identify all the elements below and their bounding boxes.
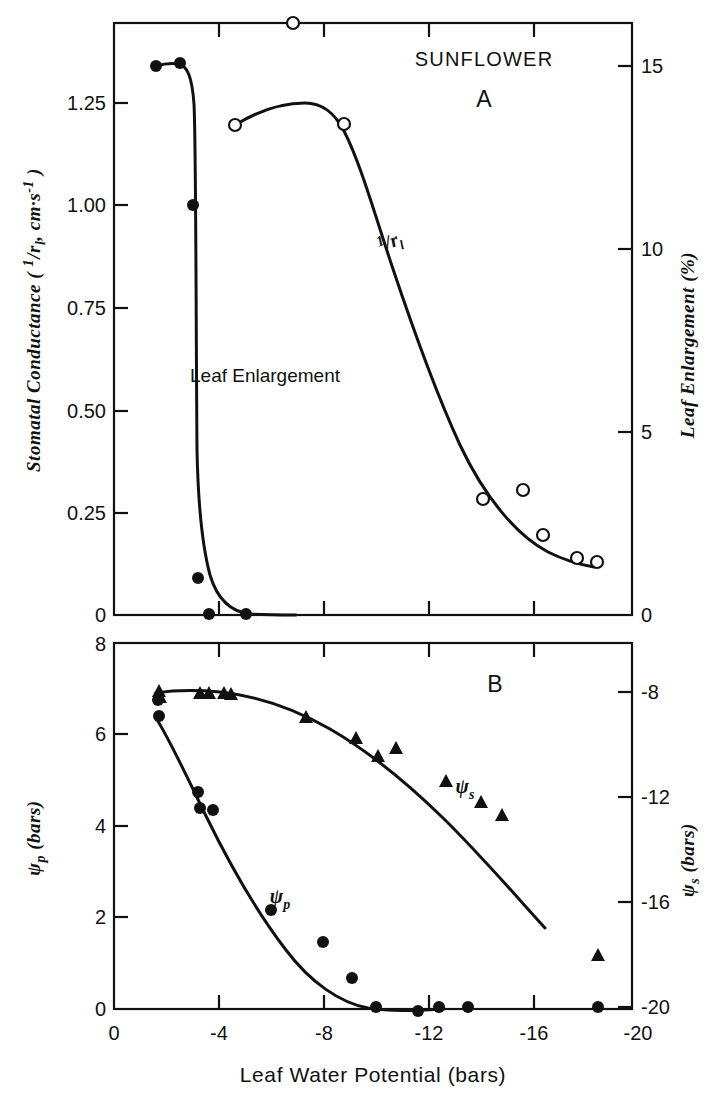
svg-text:1/rl: 1/rl — [374, 226, 407, 260]
figure-root: 1.25 1.00 0.75 0.50 0.25 0 15 10 5 0 — [0, 0, 711, 1116]
panel-a-left-ticks — [114, 103, 128, 513]
panel-b-ytick-2: 2 — [95, 906, 106, 928]
panel-a-frame — [114, 23, 632, 615]
panel-a-label: A — [476, 86, 492, 112]
inverse-rl-points — [229, 17, 603, 568]
panel-a-axis-title-pre: Stomatal Conductance ( — [23, 267, 45, 472]
panel-b-ytick-4: 4 — [95, 815, 106, 837]
panel-b-xtick-labels: 0 -4 -8 -12 -16 -20 — [108, 1022, 652, 1044]
panel-b-y2tick-8: -8 — [641, 681, 659, 703]
panel-b-y2tick-16: -16 — [641, 891, 670, 913]
panel-b-right-ticks — [618, 692, 632, 1007]
panel-a-ytick-025: 0.25 — [67, 502, 106, 524]
panel-b-left-tick-labels: 8 6 4 2 0 — [95, 633, 106, 1020]
psi-p-points — [152, 694, 604, 1017]
xtick-12: -12 — [415, 1022, 444, 1044]
panel-a-axis-title-post: ) — [23, 168, 45, 180]
xtick-0: 0 — [108, 1022, 119, 1044]
xtick-16: -16 — [520, 1022, 549, 1044]
psi-p-curve — [156, 718, 444, 1010]
panel-a-ytick-0: 0 — [95, 604, 106, 626]
svg-text:ψs: ψs — [456, 775, 475, 802]
panel-a-y2tick-15: 15 — [641, 55, 663, 77]
panel-a-bottom-ticks — [219, 601, 534, 615]
figure-svg: 1.25 1.00 0.75 0.50 0.25 0 15 10 5 0 — [0, 0, 711, 1116]
panel-a-ytick-100: 1.00 — [67, 194, 106, 216]
xtick-8: -8 — [315, 1022, 333, 1044]
panel-b-left-ticks — [114, 734, 128, 917]
panel-a-left-tick-labels: 1.25 1.00 0.75 0.50 0.25 0 — [67, 92, 106, 626]
svg-text:ψp (bars): ψp (bars) — [23, 800, 48, 875]
panel-a-ytick-075: 0.75 — [67, 297, 106, 319]
panel-a-axis-title-num: 1 — [20, 259, 36, 267]
panel-a-axis-title-mid: , cm·s — [23, 193, 44, 242]
panel-b-ytick-8: 8 — [95, 633, 106, 655]
panel-b-top-ticks — [219, 643, 534, 657]
panel-b: 8 6 4 2 0 -8 -12 -16 -20 — [23, 633, 702, 1044]
xtick-20: -20 — [624, 1022, 653, 1044]
inverse-rl-curve-label: 1/rl — [374, 226, 407, 260]
inverse-rl-curve — [235, 103, 594, 567]
panel-a-y2tick-0: 0 — [641, 604, 652, 626]
panel-a-ytick-125: 1.25 — [67, 92, 106, 114]
svg-text:Leaf Enlargement (%): Leaf Enlargement (%) — [677, 252, 699, 439]
panel-a-axis-title-den: r — [23, 245, 44, 253]
panel-a-ytick-050: 0.50 — [67, 400, 106, 422]
panel-a-right-axis-title: Leaf Enlargement (%) — [677, 252, 699, 439]
panel-b-right-tick-labels: -8 -12 -16 -20 — [641, 681, 670, 1018]
panel-a-right-tick-labels: 15 10 5 0 — [641, 55, 663, 626]
svg-text:Stomatal Conductance ( 1/rl, c: Stomatal Conductance ( 1/rl, cm·s-1 ) — [20, 168, 48, 472]
panel-a-right-ticks — [618, 66, 632, 432]
x-axis-title: Leaf Water Potential (bars) — [240, 1063, 506, 1086]
panel-a: 1.25 1.00 0.75 0.50 0.25 0 15 10 5 0 — [20, 17, 699, 626]
panel-b-ytick-0: 0 — [95, 998, 106, 1020]
svg-text:ψs (bars): ψs (bars) — [677, 823, 702, 897]
panel-b-y2tick-12: -12 — [641, 786, 670, 808]
leaf-enlargement-curve — [156, 64, 296, 615]
panel-a-y2tick-10: 10 — [641, 238, 663, 260]
panel-a-top-ticks — [219, 23, 534, 37]
psi-s-curve-label: ψs — [456, 775, 475, 802]
leaf-enlargement-curve-label: Leaf Enlargement — [190, 365, 341, 386]
xtick-4: -4 — [210, 1022, 228, 1044]
panel-b-label: B — [487, 671, 502, 697]
panel-b-right-axis-title: ψs (bars) — [677, 823, 702, 897]
panel-b-ytick-6: 6 — [95, 723, 106, 745]
svg-text:Leaf Enlargement: Leaf Enlargement — [190, 365, 341, 386]
panel-b-y2tick-20: -20 — [641, 996, 670, 1018]
panel-a-axis-title-sup: -1 — [21, 180, 36, 193]
panel-b-left-axis-title: ψp (bars) — [23, 800, 48, 875]
panel-a-y2tick-5: 5 — [641, 421, 652, 443]
panel-b-frame — [114, 643, 632, 1009]
leaf-enlargement-points — [150, 57, 252, 620]
panel-a-left-axis-title: Stomatal Conductance ( 1/rl, cm·s-1 ) — [20, 168, 48, 472]
species-label: SUNFLOWER — [415, 48, 554, 70]
